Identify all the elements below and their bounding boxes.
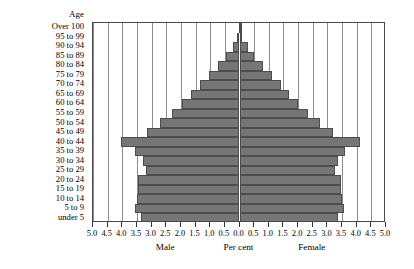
x-tick-3.5 bbox=[136, 222, 137, 227]
x-tick-3.0 bbox=[151, 222, 152, 227]
bar-male-85-to-89 bbox=[226, 52, 239, 62]
population-pyramid-chart: Age Over 10095 to 9990 to 9485 to 8980 t… bbox=[0, 0, 414, 269]
y-axis-label-45-to-49: 45 to 49 bbox=[56, 127, 84, 136]
bar-male-65-to-69 bbox=[191, 90, 239, 100]
bar-male-70-to-74 bbox=[200, 80, 240, 90]
y-axis-label-55-to-59: 55 to 59 bbox=[56, 108, 84, 117]
bar-male-5-to-9 bbox=[135, 204, 239, 214]
bar-row bbox=[93, 166, 384, 176]
bar-row bbox=[93, 137, 384, 147]
bar-female-75-to-79 bbox=[240, 71, 272, 81]
x-tick-label-15: 2.5 bbox=[307, 229, 317, 239]
x-tick-0.5 bbox=[224, 222, 225, 227]
x-tick-0.5 bbox=[253, 222, 254, 227]
bar-female-30-to-34 bbox=[240, 156, 338, 166]
bar-row bbox=[93, 61, 384, 71]
bar-female-15-to-19 bbox=[240, 185, 341, 195]
bar-male-40-to-44 bbox=[121, 137, 240, 147]
x-tick-label-6: 2.0 bbox=[175, 229, 185, 239]
y-axis-label-under-5: under 5 bbox=[58, 213, 84, 222]
x-tick-label-2: 4.0 bbox=[116, 229, 126, 239]
bar-male-75-to-79 bbox=[209, 71, 240, 81]
bar-male-45-to-49 bbox=[147, 128, 239, 138]
x-axis-tick-labels: 5.04.54.03.53.02.52.01.51.00.50.00.51.01… bbox=[0, 229, 414, 241]
x-tick-5.0 bbox=[385, 222, 386, 227]
x-tick-0.0 bbox=[239, 222, 240, 227]
bar-female-35-to-39 bbox=[240, 147, 345, 157]
bar-row bbox=[93, 52, 384, 62]
bar-male-15-to-19 bbox=[138, 185, 239, 195]
x-tick-label-10: 0.0 bbox=[233, 229, 243, 239]
plot-area bbox=[92, 22, 385, 222]
x-axis-male-label: Male bbox=[156, 241, 175, 253]
bar-row bbox=[93, 118, 384, 128]
bar-female-5-to-9 bbox=[240, 204, 344, 214]
bar-row bbox=[93, 90, 384, 100]
bar-male-60-to-64 bbox=[182, 99, 239, 109]
bar-row bbox=[93, 128, 384, 138]
bar-male-10-to-14 bbox=[137, 194, 240, 204]
x-tick-4.0 bbox=[121, 222, 122, 227]
x-tick-label-3: 3.5 bbox=[131, 229, 141, 239]
bar-female-10-to-14 bbox=[240, 194, 343, 204]
x-tick-label-19: 4.5 bbox=[365, 229, 375, 239]
x-tick-label-18: 4.0 bbox=[350, 229, 360, 239]
x-tick-2.0 bbox=[180, 222, 181, 227]
bar-male-55-to-59 bbox=[172, 109, 239, 119]
x-tick-label-1: 4.5 bbox=[101, 229, 111, 239]
bar-male-under-5 bbox=[141, 213, 239, 222]
bar-male-80-to-84 bbox=[218, 61, 240, 71]
bar-female-95-to-99 bbox=[240, 33, 243, 43]
x-tick-label-17: 3.5 bbox=[336, 229, 346, 239]
y-axis-label-90-to-94: 90 to 94 bbox=[56, 41, 84, 50]
x-tick-label-0: 5.0 bbox=[87, 229, 97, 239]
x-tick-label-7: 1.5 bbox=[189, 229, 199, 239]
x-tick-label-12: 1.0 bbox=[263, 229, 273, 239]
bar-female-under-5 bbox=[240, 213, 338, 222]
y-axis-title: Age bbox=[69, 10, 84, 19]
x-tick-2.0 bbox=[297, 222, 298, 227]
bar-row bbox=[93, 23, 384, 33]
bar-female-40-to-44 bbox=[240, 137, 360, 147]
bar-female-over-100 bbox=[240, 23, 242, 33]
bar-row bbox=[93, 71, 384, 81]
bar-row bbox=[93, 147, 384, 157]
bar-female-90-to-94 bbox=[240, 42, 248, 52]
bar-row bbox=[93, 175, 384, 185]
x-tick-label-14: 2.0 bbox=[292, 229, 302, 239]
x-axis-group-labels: Male Per cent Female bbox=[0, 241, 414, 255]
bar-female-50-to-54 bbox=[240, 118, 321, 128]
bar-female-80-to-84 bbox=[240, 61, 263, 71]
y-axis-label-15-to-19: 15 to 19 bbox=[56, 184, 84, 193]
bar-female-25-to-29 bbox=[240, 166, 335, 176]
y-axis-label-80-to-84: 80 to 84 bbox=[56, 60, 84, 69]
x-tick-label-4: 3.0 bbox=[145, 229, 155, 239]
x-axis-ticks bbox=[92, 222, 385, 228]
bar-row bbox=[93, 185, 384, 195]
x-tick-label-9: 0.5 bbox=[219, 229, 229, 239]
x-tick-3.5 bbox=[341, 222, 342, 227]
x-tick-label-13: 1.5 bbox=[277, 229, 287, 239]
x-tick-4.0 bbox=[356, 222, 357, 227]
bar-female-45-to-49 bbox=[240, 128, 334, 138]
bar-male-30-to-34 bbox=[143, 156, 240, 166]
x-tick-5.0 bbox=[92, 222, 93, 227]
bar-row bbox=[93, 204, 384, 214]
bar-row bbox=[93, 213, 384, 222]
x-tick-label-20: 5.0 bbox=[380, 229, 390, 239]
x-tick-label-5: 2.5 bbox=[160, 229, 170, 239]
bar-male-20-to-24 bbox=[138, 175, 239, 185]
x-axis-female-label: Female bbox=[298, 241, 325, 253]
bar-row bbox=[93, 109, 384, 119]
x-tick-1.5 bbox=[195, 222, 196, 227]
bar-row bbox=[93, 194, 384, 204]
bar-female-55-to-59 bbox=[240, 109, 309, 119]
x-axis-percent-label: Per cent bbox=[224, 241, 254, 253]
bar-female-60-to-64 bbox=[240, 99, 299, 109]
x-tick-1.5 bbox=[282, 222, 283, 227]
bar-row bbox=[93, 33, 384, 43]
bars-container bbox=[93, 23, 384, 221]
bar-female-85-to-89 bbox=[240, 52, 255, 62]
bar-male-35-to-39 bbox=[135, 147, 239, 157]
y-axis-label-5-to-9: 5 to 9 bbox=[64, 203, 84, 212]
